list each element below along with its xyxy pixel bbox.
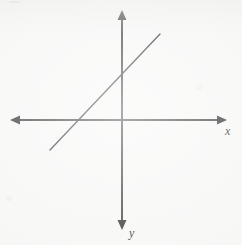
y-axis-label: y [129,227,134,239]
y-axis-up-arrowhead [118,10,127,20]
x-axis-label: x [225,125,230,137]
plotted-line [50,34,160,150]
x-axis [10,116,227,125]
coordinate-plane-figure: x y [0,0,242,245]
graph-canvas [0,0,242,245]
y-axis-down-arrowhead [118,220,127,230]
line-segment [50,34,160,150]
x-axis-left-arrowhead [10,116,20,125]
